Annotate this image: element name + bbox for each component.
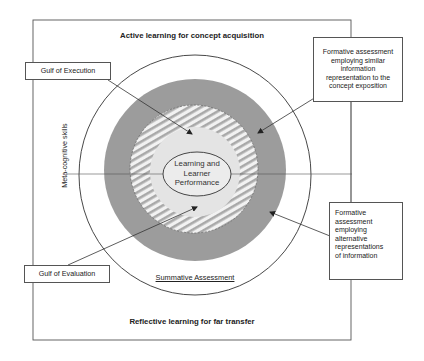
center-label-line-3: Performance [162, 178, 232, 188]
gulf-of-execution-text: Gulf of Execution [41, 67, 96, 76]
formative-alternative-line-2: assessment [335, 218, 372, 227]
formative-alternative-line-1: Formative [335, 209, 366, 218]
center-label-line-1: Learning and [162, 159, 232, 169]
formative-similar-line-5: concept exposition [329, 82, 387, 90]
top-title: Active learning for concept acquisition [92, 31, 292, 40]
gulf-of-evaluation-text: Gulf of Evaluation [39, 270, 96, 279]
formative-alternative-box: Formative assessment employing alternati… [329, 202, 403, 280]
formative-similar-box: Formative assessment employing similar i… [313, 37, 403, 102]
bottom-title: Reflective learning for far transfer [92, 317, 292, 326]
formative-similar-line-2: employing similar [331, 57, 385, 65]
formative-alternative-line-5: representations [335, 243, 383, 252]
formative-alternative-line-4: alternative [335, 235, 367, 244]
formative-alternative-line-3: employing [335, 226, 367, 235]
formative-similar-line-1: Formative assessment [323, 48, 393, 56]
gulf-of-execution-box: Gulf of Execution [25, 62, 111, 80]
formative-alternative-line-6: of information [335, 252, 377, 261]
summative-assessment-label: Summative Assessment [145, 273, 245, 282]
center-performance-label: Learning and Learner Performance [162, 159, 232, 188]
meta-cognitive-skills-label: Meta-cognitive skills [60, 116, 69, 196]
formative-similar-line-3: information [341, 65, 376, 73]
gulf-of-evaluation-box: Gulf of Evaluation [24, 265, 110, 283]
center-label-line-2: Learner [162, 169, 232, 179]
formative-similar-line-4: representation to the [326, 74, 390, 82]
